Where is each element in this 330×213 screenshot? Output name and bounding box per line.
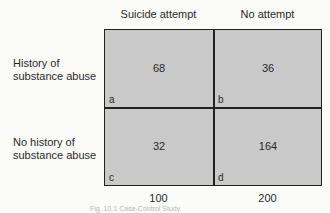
cell-value: 36 [214, 62, 322, 74]
cell-letter: a [109, 94, 115, 105]
row-label-line1: No history of [13, 136, 103, 149]
horizontal-divider [105, 107, 321, 109]
row-label-line2: substance abuse [13, 149, 103, 162]
cell-a: 68 a [105, 30, 213, 107]
row-label-history: History of substance abuse [13, 57, 103, 83]
column-header-suicide-attempt: Suicide attempt [104, 8, 213, 20]
cell-value: 32 [105, 140, 213, 152]
cell-value: 164 [214, 140, 322, 152]
cell-b: 36 b [214, 30, 322, 107]
cell-letter: b [218, 94, 224, 105]
cell-letter: d [218, 172, 224, 183]
cell-value: 68 [105, 62, 213, 74]
row-label-no-history: No history of substance abuse [13, 136, 103, 162]
cell-c: 32 c [105, 108, 213, 185]
column-header-no-attempt: No attempt [213, 8, 322, 20]
column-total-no-attempt: 200 [213, 192, 322, 204]
cell-d: 164 d [214, 108, 322, 185]
column-total-suicide-attempt: 100 [104, 192, 213, 204]
contingency-table: 68 a 36 b 32 c 164 d [104, 29, 322, 186]
row-label-line1: History of [13, 57, 103, 70]
row-label-line2: substance abuse [13, 70, 103, 83]
figure-caption: Fig. 10.1 Case-Control Study [90, 205, 180, 212]
cell-letter: c [109, 172, 114, 183]
